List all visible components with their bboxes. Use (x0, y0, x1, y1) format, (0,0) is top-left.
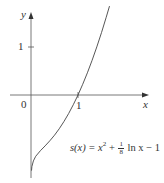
formula-rest: ln x − 1 (125, 142, 160, 153)
formula-fraction: 18 (118, 141, 124, 156)
x-axis-label: x (143, 99, 148, 110)
formula-plus: + (106, 142, 117, 153)
y-axis-label: y (21, 9, 26, 20)
fraction-denominator: 8 (118, 149, 124, 156)
y-tick-label: 1 (18, 41, 24, 52)
origin-label: 0 (21, 99, 27, 110)
y-axis-arrow-icon (29, 12, 34, 19)
function-formula: s(x) = x2 + 18 ln x − 1 (70, 140, 160, 156)
x-axis-arrow-icon (142, 93, 149, 98)
x-tick-label: 1 (76, 100, 82, 111)
formula-lhs: s(x) = x (70, 142, 103, 153)
